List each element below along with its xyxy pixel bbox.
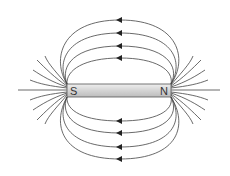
north-pole-label: N bbox=[160, 85, 168, 97]
south-pole-flare-lines bbox=[18, 56, 67, 124]
south-pole-label: S bbox=[70, 85, 77, 97]
upper-field-lines bbox=[60, 20, 178, 84]
magnet-field-diagram: S N bbox=[0, 0, 230, 176]
upper-arrows bbox=[116, 17, 122, 61]
bar-magnet bbox=[67, 84, 171, 97]
lower-arrows bbox=[116, 118, 122, 162]
lower-field-lines bbox=[60, 97, 178, 159]
